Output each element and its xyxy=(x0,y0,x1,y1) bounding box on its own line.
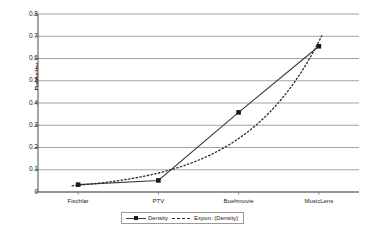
x-axis-tick-label: PTV xyxy=(118,198,198,204)
chart-container: Density 00.10.20.30.40.50.60.70.8 Fischl… xyxy=(0,0,369,239)
x-axis-tick-label: MusicLens xyxy=(279,198,359,204)
chart-legend: Density Expon. (Density) xyxy=(121,212,244,224)
legend-entry-density: Density xyxy=(126,215,168,221)
legend-line-marker-icon xyxy=(126,215,146,221)
legend-dotted-line-icon xyxy=(172,215,192,221)
x-axis-tick-label: Boehmovie xyxy=(199,198,279,204)
data-point-marker xyxy=(236,110,241,115)
legend-entry-expon-density: Expon. (Density) xyxy=(172,215,238,221)
legend-label-expon-density: Expon. (Density) xyxy=(194,215,238,221)
legend-label-density: Density xyxy=(148,215,168,221)
data-point-marker xyxy=(156,178,161,183)
data-point-marker xyxy=(317,44,322,49)
x-axis-tick-label: Fischlar xyxy=(38,198,118,204)
